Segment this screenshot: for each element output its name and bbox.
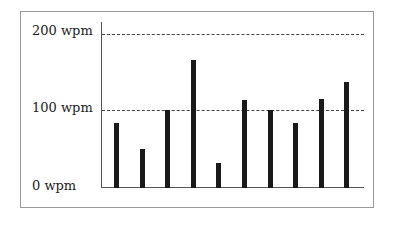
bar-6 [242,100,247,188]
bar-1 [114,123,119,188]
y-tick-label-200: 200 wpm [32,24,93,38]
bar-8 [293,123,298,188]
bar-4 [191,60,196,188]
bar-7 [268,110,273,188]
bar-3 [165,110,170,188]
gridline-200 [102,34,364,35]
y-tick-label-100: 100 wpm [32,101,93,115]
y-tick-label-0: 0 wpm [32,179,76,193]
bar-5 [216,163,221,188]
bar-2 [140,149,145,188]
gridline-100 [102,110,364,111]
bar-9 [319,99,324,188]
y-axis [101,22,102,188]
bar-10 [344,82,349,188]
